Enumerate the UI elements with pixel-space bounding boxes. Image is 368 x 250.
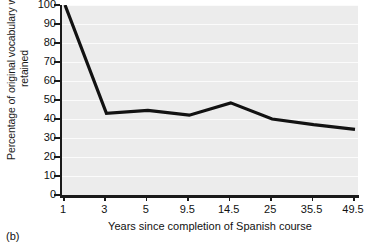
x-tick-mark — [187, 195, 189, 201]
y-tick-mark — [54, 80, 60, 82]
x-tick-label: 35.5 — [301, 203, 322, 215]
y-tick-mark — [54, 23, 60, 25]
x-tick-mark — [353, 195, 355, 201]
x-tick-label: 9.5 — [180, 203, 195, 215]
line-series — [62, 5, 358, 195]
plot-area — [60, 5, 358, 195]
x-tick-mark — [312, 195, 314, 201]
y-tick-mark — [54, 118, 60, 120]
x-tick-mark — [270, 195, 272, 201]
y-tick-mark — [54, 4, 60, 6]
x-tick-label: 5 — [143, 203, 149, 215]
x-tick-mark — [146, 195, 148, 201]
x-tick-label: 3 — [101, 203, 107, 215]
y-axis-tick-labels: 1009080706050403020100 — [22, 0, 56, 210]
y-tick-mark — [54, 61, 60, 63]
data-line — [65, 5, 355, 129]
x-tick-label: 49.5 — [342, 203, 363, 215]
x-tick-label: 1 — [60, 203, 66, 215]
x-tick-mark — [229, 195, 231, 201]
y-tick-mark — [54, 137, 60, 139]
panel-label: (b) — [6, 230, 19, 242]
y-tick-mark — [54, 175, 60, 177]
y-tick-mark — [54, 42, 60, 44]
x-tick-mark — [63, 195, 65, 201]
x-tick-label: 25 — [264, 203, 276, 215]
x-tick-label: 14.5 — [218, 203, 239, 215]
y-tick-mark — [54, 194, 60, 196]
plot-inner — [62, 5, 358, 195]
x-tick-mark — [104, 195, 106, 201]
figure-panel-b: Percentage of original vocabulary words … — [0, 0, 368, 250]
y-tick-mark — [54, 99, 60, 101]
y-tick-mark — [54, 156, 60, 158]
x-axis-title: Years since completion of Spanish course — [60, 220, 360, 232]
